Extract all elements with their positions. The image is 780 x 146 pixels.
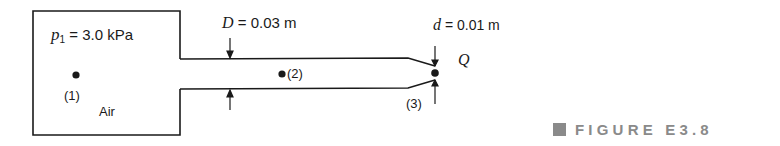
point-2-label: (2): [287, 66, 303, 81]
pipe-bottom-wall: [180, 80, 435, 89]
D-dimension-arrows: [227, 38, 233, 110]
pipe-top-wall: [180, 58, 435, 66]
air-label: Air: [99, 104, 115, 119]
d-label: d = 0.01 m: [433, 16, 500, 34]
figure-caption: FIGURE E3.8: [553, 121, 713, 138]
D-label: D = 0.03 m: [222, 14, 297, 32]
p1-label: p1 = 3.0 kPa: [51, 25, 133, 45]
caption-text: FIGURE E3.8: [575, 121, 713, 138]
point-2-marker: [278, 70, 285, 77]
caption-square-icon: [553, 123, 566, 136]
Q-label: Q: [458, 51, 470, 69]
point-1-label: (1): [64, 88, 80, 103]
point-3-label: (3): [406, 96, 422, 111]
point-3-marker: [431, 69, 439, 77]
point-1-marker: [72, 71, 79, 78]
